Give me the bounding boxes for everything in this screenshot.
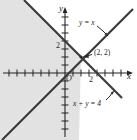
origin-label: O — [66, 75, 72, 83]
line-label-x-plus-y-equals-4: x + y = 4 — [73, 100, 101, 108]
y-axis-arrowhead — [63, 7, 68, 13]
graph-figure: y x O 2 2 y = x (2, 2) x + y = 4 — [0, 0, 137, 140]
y-axis-label: y — [59, 4, 63, 13]
graph-canvas — [0, 0, 137, 140]
line-label-y-equals-x: y = x — [79, 19, 94, 27]
intersection-point-label: (2, 2) — [94, 49, 110, 57]
x-axis-label: x — [127, 72, 131, 81]
y-axis-tick-label-2: 2 — [56, 42, 60, 50]
intersection-point-marker — [80, 56, 83, 59]
x-axis-tick-label-2: 2 — [89, 76, 93, 84]
